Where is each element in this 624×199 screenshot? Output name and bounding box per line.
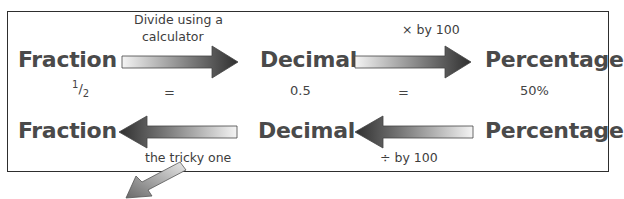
fraction-denominator: 2 (83, 88, 89, 99)
value-fraction: 1/2 (72, 79, 89, 99)
label-fraction-bottom: Fraction (18, 118, 117, 143)
label-decimal-bottom: Decimal (258, 118, 355, 143)
fraction-numerator: 1 (72, 79, 78, 90)
label-fraction-top: Fraction (18, 47, 117, 72)
arrow-decimal-to-percentage-icon (355, 46, 473, 78)
arrow-tricky-down-icon (118, 162, 188, 192)
equals-2: = (398, 85, 409, 100)
caption-divide-line2: calculator (142, 29, 204, 44)
label-percentage-top: Percentage (485, 47, 624, 72)
arrow-percentage-to-decimal-icon (355, 116, 475, 148)
equals-1: = (164, 85, 175, 100)
arrow-fraction-to-decimal-icon (122, 46, 240, 78)
label-decimal-top: Decimal (260, 47, 357, 72)
caption-multiply: × by 100 (402, 22, 460, 37)
label-percentage-bottom: Percentage (485, 118, 624, 143)
caption-divide-by-100: ÷ by 100 (380, 150, 438, 165)
value-decimal: 0.5 (290, 83, 311, 98)
value-percentage: 50% (520, 83, 549, 98)
caption-divide-line1: Divide using a (134, 12, 223, 27)
arrow-decimal-to-fraction-icon (119, 116, 239, 148)
